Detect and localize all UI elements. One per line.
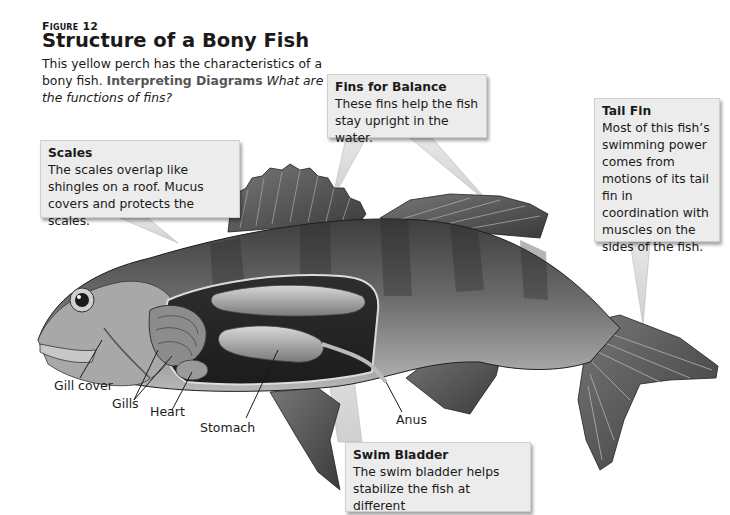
pelvic-fin [270, 388, 340, 490]
callout-scales-text: The scales overlap like shingles on a ro… [48, 163, 204, 228]
label-heart: Heart [150, 404, 185, 419]
label-gill-cover: Gill cover [54, 378, 113, 393]
callout-swim-bladder-text: The swim bladder helps stabilize the fis… [353, 465, 499, 513]
label-anus: Anus [396, 412, 427, 427]
callout-scales: Scales The scales overlap like shingles … [40, 140, 240, 218]
callout-swim-bladder-title: Swim Bladder [353, 447, 523, 464]
callout-fins-for-balance: Fins for Balance These fins help the fis… [327, 74, 487, 138]
caption-lead: Interpreting Diagrams [107, 73, 263, 88]
label-gills: Gills [112, 396, 139, 411]
callout-tail-fin: Tail Fin Most of this fish’s swimming po… [594, 98, 720, 242]
figure-caption: This yellow perch has the characteristic… [42, 55, 327, 106]
callout-fins-title: Fins for Balance [335, 79, 479, 96]
callout-swim-bladder: Swim Bladder The swim bladder helps stab… [345, 442, 531, 512]
swim-bladder-graphic [211, 285, 365, 316]
heart-graphic [176, 360, 208, 380]
label-stomach: Stomach [200, 420, 255, 435]
callout-tail-title: Tail Fin [602, 103, 712, 120]
callout-scales-title: Scales [48, 145, 232, 162]
anus-leader [386, 382, 402, 412]
callout-fins-text: These fins help the fish stay upright in… [335, 97, 478, 145]
figure-title: Structure of a Bony Fish [42, 29, 309, 52]
callout-tail-text: Most of this fish’s swimming power comes… [602, 121, 710, 254]
